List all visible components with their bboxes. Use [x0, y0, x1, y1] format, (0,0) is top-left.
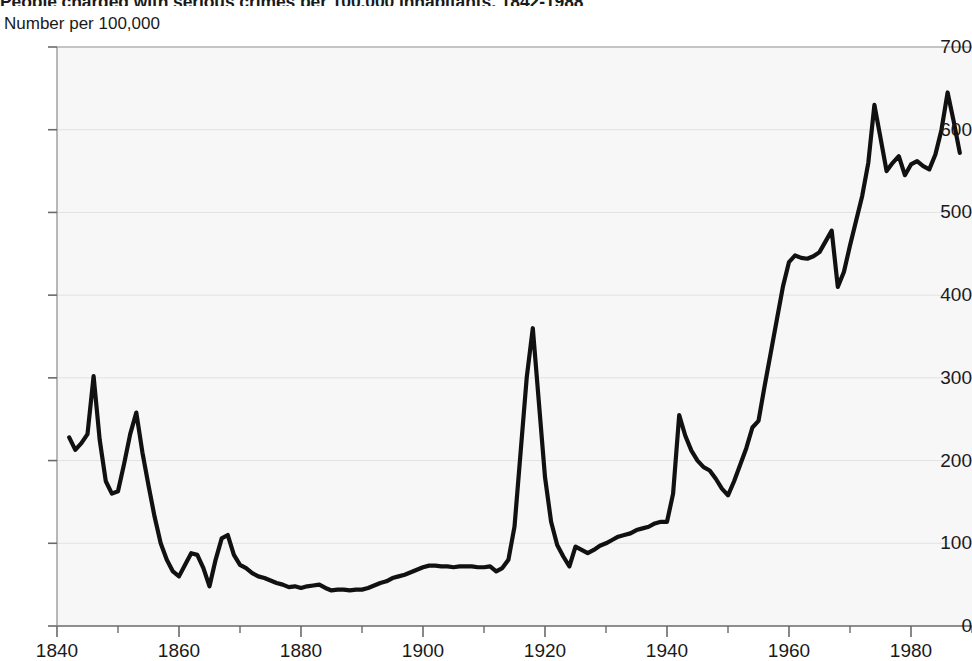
x-tick-label: 1900 [388, 640, 458, 661]
x-tick-label: 1860 [144, 640, 214, 661]
x-tick-label: 1880 [266, 640, 336, 661]
y-tick-label: 100 [928, 532, 972, 554]
y-tick-label: 500 [928, 201, 972, 223]
y-tick-label: 400 [928, 284, 972, 306]
x-tick-label: 1920 [510, 640, 580, 661]
y-tick-label: 200 [928, 450, 972, 472]
x-tick-label: 1840 [22, 640, 92, 661]
y-tick-label: 300 [928, 367, 972, 389]
y-tick-label: 0 [928, 615, 972, 637]
y-tick-label: 600 [928, 119, 972, 141]
plot-background [57, 47, 972, 626]
x-tick-label: 1940 [632, 640, 702, 661]
x-tick-label: 1960 [754, 640, 824, 661]
y-tick-label: 700 [928, 36, 972, 58]
x-tick-label: 1980 [876, 640, 946, 661]
